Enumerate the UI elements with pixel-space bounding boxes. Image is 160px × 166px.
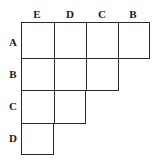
cell-c-e	[21, 90, 55, 124]
cell-d-e	[21, 123, 54, 155]
row-label-b: B	[6, 68, 20, 80]
cell-a-e	[21, 22, 55, 59]
cell-a-d	[54, 22, 87, 59]
column-label-b: B	[126, 8, 140, 20]
cell-a-b	[118, 22, 150, 59]
column-label-c: C	[95, 8, 109, 20]
cell-c-d	[54, 90, 86, 124]
row-label-d: D	[6, 132, 20, 144]
cell-b-d	[54, 58, 87, 91]
cell-b-e	[21, 58, 55, 91]
column-label-e: E	[30, 8, 44, 20]
cell-a-c	[86, 22, 119, 59]
column-label-d: D	[63, 8, 77, 20]
row-label-c: C	[6, 100, 20, 112]
cell-b-c	[86, 58, 119, 91]
row-label-a: A	[6, 36, 20, 48]
